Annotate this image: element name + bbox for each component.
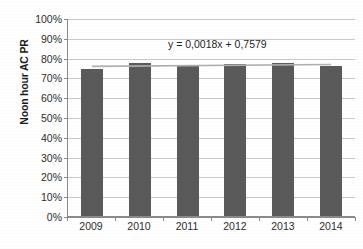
x-tick-mark xyxy=(355,217,356,221)
x-axis-tick-labels: 200920102011201220132014 xyxy=(67,220,355,232)
x-tick-mark xyxy=(259,217,260,221)
y-tick-label: 30% xyxy=(18,152,62,164)
bar-slot xyxy=(307,19,355,216)
bar[interactable] xyxy=(272,63,294,216)
x-tick-label: 2009 xyxy=(67,220,115,232)
x-tick-label: 2010 xyxy=(115,220,163,232)
y-axis-tick-labels: 0%10%20%30%40%50%60%70%80%90%100% xyxy=(18,0,62,249)
bar[interactable] xyxy=(224,64,246,216)
bar[interactable] xyxy=(177,65,199,216)
bar-slot xyxy=(68,19,116,216)
y-tick-label: 50% xyxy=(18,112,62,124)
y-tick-label: 10% xyxy=(18,191,62,203)
y-tick-label: 70% xyxy=(18,72,62,84)
bar-slot xyxy=(116,19,164,216)
y-tick-label: 40% xyxy=(18,132,62,144)
y-tick-label: 20% xyxy=(18,171,62,183)
x-tick-label: 2012 xyxy=(211,220,259,232)
bar[interactable] xyxy=(320,66,342,216)
x-tick-mark xyxy=(211,217,212,221)
x-tick-mark xyxy=(163,217,164,221)
bar-chart: Noon hour AC PR 0%10%20%30%40%50%60%70%8… xyxy=(0,0,363,249)
x-tick-mark xyxy=(67,217,68,221)
y-tick-label: 0% xyxy=(18,211,62,223)
bar[interactable] xyxy=(81,69,103,217)
x-tick-label: 2013 xyxy=(259,220,307,232)
bar[interactable] xyxy=(129,63,151,216)
y-tick-label: 100% xyxy=(18,13,62,25)
x-tick-mark xyxy=(115,217,116,221)
y-tick-label: 90% xyxy=(18,33,62,45)
y-tick-label: 60% xyxy=(18,92,62,104)
x-tick-label: 2011 xyxy=(163,220,211,232)
x-tick-mark xyxy=(307,217,308,221)
y-tick-label: 80% xyxy=(18,53,62,65)
trendline-equation: y = 0,0018x + 0,7579 xyxy=(168,38,267,50)
x-tick-label: 2014 xyxy=(307,220,355,232)
